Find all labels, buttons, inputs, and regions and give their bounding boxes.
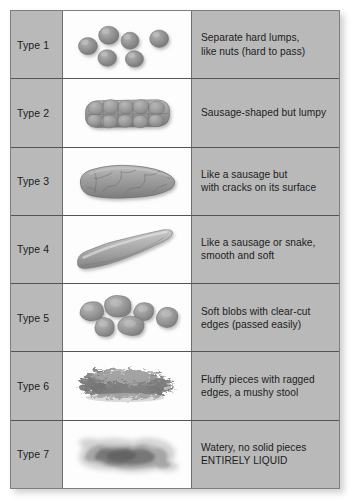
- table-row: Type 6: [11, 352, 339, 420]
- description-cell: Fluffy pieces with ragged edges, a mushy…: [192, 352, 339, 419]
- type-label: Type 4: [17, 243, 49, 255]
- type-cell: Type 1: [11, 11, 63, 78]
- type-cell: Type 7: [11, 421, 63, 488]
- description-cell: Separate hard lumps, like nuts (hard to …: [192, 11, 339, 78]
- type-label: Type 3: [17, 175, 49, 187]
- description-text: Sausage-shaped but lumpy: [201, 106, 326, 119]
- description-cell: Like a sausage or snake, smooth and soft: [192, 216, 339, 283]
- lumpy-sausage-art: [63, 79, 192, 146]
- description-text: Watery, no solid pieces ENTIRELY LIQUID: [201, 441, 306, 467]
- description-cell: Like a sausage but with cracks on its su…: [192, 148, 339, 215]
- type-cell: Type 5: [11, 284, 63, 351]
- table-row: Type 1: [11, 11, 339, 79]
- fluffy-ragged-pieces-art: [63, 352, 192, 419]
- description-text: Soft blobs with clear-cut edges (passed …: [201, 305, 310, 331]
- description-text: Like a sausage but with cracks on its su…: [201, 168, 316, 194]
- soft-blobs-art: [63, 284, 192, 351]
- type-label: Type 7: [17, 448, 49, 460]
- table-row: Type 4: [11, 216, 339, 284]
- type-label: Type 2: [17, 107, 49, 119]
- description-cell: Soft blobs with clear-cut edges (passed …: [192, 284, 339, 351]
- table-row: Type 2: [11, 79, 339, 147]
- table-row: Type 3: [11, 148, 339, 216]
- separate-hard-lumps-art: [63, 11, 192, 78]
- type-cell: Type 4: [11, 216, 63, 283]
- stool-type-table: Type 1: [10, 10, 340, 489]
- type-label: Type 1: [17, 39, 49, 51]
- type-cell: Type 3: [11, 148, 63, 215]
- type-label: Type 6: [17, 380, 49, 392]
- description-cell: Watery, no solid pieces ENTIRELY LIQUID: [192, 421, 339, 488]
- description-text: Like a sausage or snake, smooth and soft: [201, 236, 315, 262]
- smooth-sausage-art: [63, 216, 192, 283]
- table-row: Type 5: [11, 284, 339, 352]
- watery-liquid-art: [63, 421, 192, 488]
- description-text: Fluffy pieces with ragged edges, a mushy…: [201, 373, 315, 399]
- table-row: Type 7: [11, 421, 339, 488]
- description-cell: Sausage-shaped but lumpy: [192, 79, 339, 146]
- type-cell: Type 2: [11, 79, 63, 146]
- bristol-stool-chart: Type 1: [0, 0, 352, 503]
- type-label: Type 5: [17, 312, 49, 324]
- cracked-sausage-art: [63, 148, 192, 215]
- type-cell: Type 6: [11, 352, 63, 419]
- description-text: Separate hard lumps, like nuts (hard to …: [201, 31, 305, 57]
